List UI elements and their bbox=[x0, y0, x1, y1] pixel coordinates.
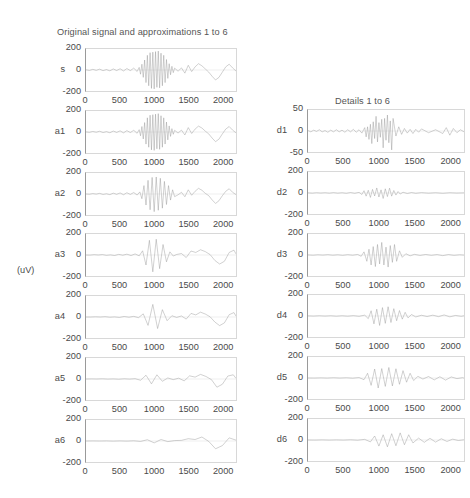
xtick-s-0: 0 bbox=[82, 95, 87, 105]
plot-d5 bbox=[307, 356, 465, 400]
plot-a6 bbox=[85, 419, 237, 463]
plot-a5 bbox=[85, 357, 237, 401]
xtick-a6-1500: 1500 bbox=[178, 466, 198, 476]
left-unit-label: (uV) bbox=[17, 265, 34, 275]
xtick-d2-500: 500 bbox=[335, 218, 350, 228]
xtick-d5-1500: 1500 bbox=[404, 403, 424, 413]
xtick-d4-1500: 1500 bbox=[404, 341, 424, 351]
signal-label-d1: d1 bbox=[255, 125, 287, 135]
ytick-zero-a3: 0 bbox=[65, 249, 81, 259]
signal-label-a6: a6 bbox=[33, 435, 65, 445]
plot-d2 bbox=[307, 171, 465, 215]
ytick-zero-d4: 0 bbox=[287, 310, 303, 320]
xtick-d5-1000: 1000 bbox=[369, 403, 389, 413]
ytick-zero-s: 0 bbox=[65, 64, 81, 74]
xtick-d3-0: 0 bbox=[304, 280, 309, 290]
ytick-max-a4: 200 bbox=[49, 289, 81, 299]
xtick-a1-1500: 1500 bbox=[178, 157, 198, 167]
xtick-d5-500: 500 bbox=[335, 403, 350, 413]
approximations-column: Original signal and approximations 1 to … bbox=[0, 0, 245, 498]
xtick-a4-1500: 1500 bbox=[178, 342, 198, 352]
plot-d4 bbox=[307, 294, 465, 338]
xtick-a4-1000: 1000 bbox=[144, 342, 164, 352]
xtick-a2-1000: 1000 bbox=[144, 219, 164, 229]
ytick-max-d4: 200 bbox=[271, 288, 303, 298]
xtick-s-2000: 2000 bbox=[213, 95, 233, 105]
signal-label-d4: d4 bbox=[255, 310, 287, 320]
xtick-a1-2000: 2000 bbox=[213, 157, 233, 167]
signal-label-d2: d2 bbox=[255, 187, 287, 197]
ytick-zero-a6: 0 bbox=[65, 435, 81, 445]
ytick-zero-d3: 0 bbox=[287, 249, 303, 259]
signal-label-a3: a3 bbox=[33, 249, 65, 259]
ytick-min-d1: -50 bbox=[271, 147, 303, 157]
signal-label-d3: d3 bbox=[255, 249, 287, 259]
xtick-a6-2000: 2000 bbox=[213, 466, 233, 476]
ytick-min-d4: -200 bbox=[271, 332, 303, 342]
xtick-d1-0: 0 bbox=[304, 156, 309, 166]
ytick-zero-a5: 0 bbox=[65, 373, 81, 383]
ytick-max-d2: 200 bbox=[271, 165, 303, 175]
ytick-min-s: -200 bbox=[49, 86, 81, 96]
xtick-d6-1000: 1000 bbox=[369, 465, 389, 475]
xtick-a1-1000: 1000 bbox=[144, 157, 164, 167]
xtick-d1-1000: 1000 bbox=[369, 156, 389, 166]
ytick-min-a2: -200 bbox=[49, 210, 81, 220]
xtick-d3-1500: 1500 bbox=[404, 280, 424, 290]
ytick-max-a2: 200 bbox=[49, 166, 81, 176]
signal-label-d5: d5 bbox=[255, 372, 287, 382]
ytick-zero-d1: 0 bbox=[287, 125, 303, 135]
xtick-d4-2000: 2000 bbox=[440, 341, 460, 351]
ytick-max-a1: 200 bbox=[49, 104, 81, 114]
xtick-d2-0: 0 bbox=[304, 218, 309, 228]
plot-s bbox=[85, 48, 237, 92]
ytick-zero-d6: 0 bbox=[287, 434, 303, 444]
ytick-zero-d5: 0 bbox=[287, 372, 303, 382]
xtick-d4-0: 0 bbox=[304, 341, 309, 351]
xtick-d3-500: 500 bbox=[335, 280, 350, 290]
left-column-title: Original signal and approximations 1 to … bbox=[57, 27, 228, 37]
plot-a3 bbox=[85, 233, 237, 277]
signal-label-d6: d6 bbox=[255, 434, 287, 444]
ytick-max-d3: 200 bbox=[271, 227, 303, 237]
xtick-a4-0: 0 bbox=[82, 342, 87, 352]
xtick-d3-2000: 2000 bbox=[440, 280, 460, 290]
ytick-max-d6: 200 bbox=[271, 412, 303, 422]
ytick-min-a1: -200 bbox=[49, 148, 81, 158]
plot-d3 bbox=[307, 233, 465, 277]
xtick-d3-1000: 1000 bbox=[369, 280, 389, 290]
plot-a4 bbox=[85, 295, 237, 339]
xtick-a2-0: 0 bbox=[82, 219, 87, 229]
xtick-a1-0: 0 bbox=[82, 157, 87, 167]
xtick-d5-2000: 2000 bbox=[440, 403, 460, 413]
xtick-a3-1500: 1500 bbox=[178, 280, 198, 290]
ytick-min-a3: -200 bbox=[49, 271, 81, 281]
ytick-zero-d2: 0 bbox=[287, 187, 303, 197]
ytick-max-a3: 200 bbox=[49, 227, 81, 237]
ytick-zero-a2: 0 bbox=[65, 188, 81, 198]
xtick-a5-500: 500 bbox=[112, 404, 127, 414]
ytick-zero-a1: 0 bbox=[65, 126, 81, 136]
signal-label-a4: a4 bbox=[33, 311, 65, 321]
plot-d1 bbox=[307, 109, 465, 153]
ytick-max-a6: 200 bbox=[49, 413, 81, 423]
signal-label-a1: a1 bbox=[33, 126, 65, 136]
xtick-d2-2000: 2000 bbox=[440, 218, 460, 228]
xtick-s-1000: 1000 bbox=[144, 95, 164, 105]
xtick-d6-1500: 1500 bbox=[404, 465, 424, 475]
xtick-a4-2000: 2000 bbox=[213, 342, 233, 352]
xtick-a5-0: 0 bbox=[82, 404, 87, 414]
xtick-d4-1000: 1000 bbox=[369, 341, 389, 351]
xtick-d2-1500: 1500 bbox=[404, 218, 424, 228]
xtick-a6-1000: 1000 bbox=[144, 466, 164, 476]
xtick-a3-500: 500 bbox=[112, 280, 127, 290]
ytick-max-d5: 200 bbox=[271, 350, 303, 360]
details-column: Details 1 to 6 (uV) d1500-50050010001500… bbox=[232, 0, 470, 498]
ytick-zero-a4: 0 bbox=[65, 311, 81, 321]
signal-label-a2: a2 bbox=[33, 188, 65, 198]
xtick-d6-500: 500 bbox=[335, 465, 350, 475]
ytick-min-d2: -200 bbox=[271, 209, 303, 219]
ytick-min-a6: -200 bbox=[49, 457, 81, 467]
xtick-d4-500: 500 bbox=[335, 341, 350, 351]
ytick-min-a5: -200 bbox=[49, 395, 81, 405]
